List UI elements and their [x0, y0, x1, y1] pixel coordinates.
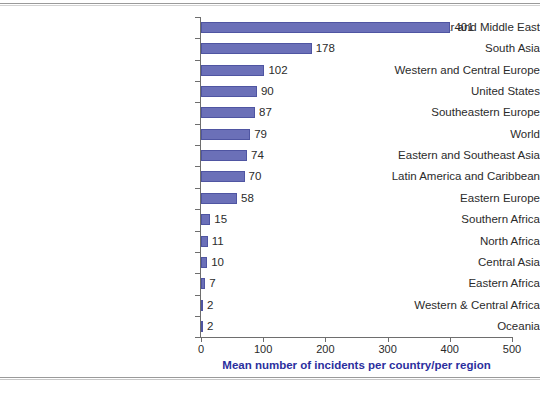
- category-label: Western and Central Europe: [352, 60, 540, 81]
- category-tick: [195, 124, 200, 125]
- category-tick: [195, 166, 200, 167]
- bar-value-label: 401: [454, 21, 473, 34]
- bar-value-label: 87: [259, 106, 272, 119]
- value-tick-label: 0: [181, 343, 221, 355]
- category-tick: [195, 17, 200, 18]
- category-label: Latin America and Caribbean: [352, 166, 540, 187]
- category-tick: [195, 60, 200, 61]
- category-label: North Africa: [352, 231, 540, 252]
- bar-value-label: 74: [251, 149, 264, 162]
- category-label: Southern Africa: [352, 209, 540, 230]
- category-tick: [195, 252, 200, 253]
- category-tick: [195, 209, 200, 210]
- value-tick-label: 400: [430, 343, 470, 355]
- bar[interactable]: [201, 86, 257, 97]
- category-tick: [195, 337, 200, 338]
- category-tick: [195, 295, 200, 296]
- bar-value-label: 178: [316, 42, 335, 55]
- bar[interactable]: [201, 43, 312, 54]
- value-tick: [388, 338, 389, 342]
- category-label: Eastern Europe: [352, 188, 540, 209]
- bar-value-label: 79: [254, 128, 267, 141]
- bar-value-label: 102: [268, 64, 287, 77]
- value-tick-label: 500: [492, 343, 532, 355]
- bar[interactable]: [201, 257, 207, 268]
- category-tick: [195, 38, 200, 39]
- value-tick-label: 200: [305, 343, 345, 355]
- bar-row: Western and Central Europe102: [0, 60, 540, 81]
- value-axis-title: Mean number of incidents per country/per…: [200, 359, 513, 371]
- category-tick: [195, 316, 200, 317]
- bar-chart-plot-area: Near and Middle East401South Asia178West…: [0, 0, 540, 394]
- value-tick: [450, 338, 451, 342]
- bar[interactable]: [201, 321, 203, 332]
- bar-row: Eastern Europe58: [0, 188, 540, 209]
- bar-value-label: 90: [261, 85, 274, 98]
- bar[interactable]: [201, 193, 237, 204]
- category-label: South Asia: [352, 38, 540, 59]
- bar-row: Eastern Africa7: [0, 273, 540, 294]
- bar-value-label: 2: [207, 320, 213, 333]
- bar[interactable]: [201, 171, 245, 182]
- value-tick-label: 300: [368, 343, 408, 355]
- bar-row: Near and Middle East401: [0, 17, 540, 38]
- bar-value-label: 15: [214, 213, 227, 226]
- category-tick: [195, 273, 200, 274]
- value-tick: [512, 338, 513, 342]
- bar-row: North Africa11: [0, 231, 540, 252]
- value-tick-label: 100: [243, 343, 283, 355]
- bar-row: Central Asia10: [0, 252, 540, 273]
- bar[interactable]: [201, 300, 203, 311]
- bar[interactable]: [201, 236, 208, 247]
- category-tick: [195, 145, 200, 146]
- category-tick: [195, 81, 200, 82]
- bar[interactable]: [201, 129, 250, 140]
- category-label: World: [352, 124, 540, 145]
- bar-row: Eastern and Southeast Asia74: [0, 145, 540, 166]
- value-tick: [263, 338, 264, 342]
- bar-value-label: 58: [241, 192, 254, 205]
- bar-row: Latin America and Caribbean70: [0, 166, 540, 187]
- bar-row: World79: [0, 124, 540, 145]
- category-label: Eastern Africa: [352, 273, 540, 294]
- bar-row: South Asia178: [0, 38, 540, 59]
- value-tick: [325, 338, 326, 342]
- bar-row: Oceania2: [0, 316, 540, 337]
- category-label: Southeastern Europe: [352, 102, 540, 123]
- bar-value-label: 10: [211, 256, 224, 269]
- bar-row: Southeastern Europe87: [0, 102, 540, 123]
- category-tick: [195, 231, 200, 232]
- bar[interactable]: [201, 278, 205, 289]
- bar[interactable]: [201, 65, 264, 76]
- bar-value-label: 7: [209, 277, 215, 290]
- bar-row: Western & Central Africa2: [0, 295, 540, 316]
- chart-page: Near and Middle East401South Asia178West…: [0, 0, 540, 394]
- bar[interactable]: [201, 150, 247, 161]
- bar-value-label: 11: [212, 235, 224, 248]
- bar-value-label: 2: [207, 299, 213, 312]
- bar-row: Southern Africa15: [0, 209, 540, 230]
- bar[interactable]: [201, 214, 210, 225]
- category-label: Western & Central Africa: [352, 295, 540, 316]
- value-axis-line: [200, 337, 513, 338]
- category-label: United States: [352, 81, 540, 102]
- bar-row: United States90: [0, 81, 540, 102]
- bar-value-label: 70: [249, 170, 262, 183]
- category-tick: [195, 188, 200, 189]
- bar[interactable]: [201, 22, 450, 33]
- category-label: Oceania: [352, 316, 540, 337]
- category-label: Central Asia: [352, 252, 540, 273]
- category-tick: [195, 102, 200, 103]
- category-label: Eastern and Southeast Asia: [352, 145, 540, 166]
- bar[interactable]: [201, 107, 255, 118]
- value-tick: [201, 338, 202, 342]
